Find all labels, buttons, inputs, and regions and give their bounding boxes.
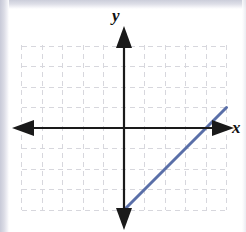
- x-axis-arrow-right: [212, 120, 234, 136]
- y-axis-arrow-up: [116, 26, 132, 48]
- line-graph-y-equals-x-minus-4: [124, 108, 227, 211]
- y-axis-label: y: [112, 7, 120, 24]
- coordinate-plane: [0, 0, 246, 232]
- y-axis-arrow-down: [116, 208, 132, 230]
- x-axis-label: x: [232, 119, 241, 136]
- x-axis-arrow-left: [12, 120, 34, 136]
- graph-screenshot: y x: [0, 0, 246, 232]
